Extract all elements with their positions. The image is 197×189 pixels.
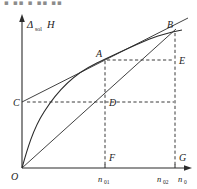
x-axis-subscript: 0 xyxy=(184,179,187,185)
point-label-O: O xyxy=(11,171,18,182)
x-axis-arrowhead xyxy=(184,165,192,171)
tick-label-n01-symbol: n xyxy=(98,174,102,184)
plot-canvas: Δ sol H n 0 n 01 n 02 A B C D E F G O xyxy=(0,0,197,189)
point-label-E: E xyxy=(178,55,185,66)
x-axis-symbol: n xyxy=(178,174,182,184)
tick-label-n02-subscript: 02 xyxy=(163,179,169,185)
enthalpy-of-solution-figure: ▪ ▪▪ ▪ ▪▪ ▪▪ Δ sol xyxy=(0,0,197,189)
y-axis-delta-symbol: Δ xyxy=(26,19,33,30)
tick-label-n02: n 02 xyxy=(157,174,169,185)
point-label-B: B xyxy=(167,19,173,30)
tick-label-n01: n 01 xyxy=(98,174,110,185)
y-axis-quantity: H xyxy=(46,19,56,30)
y-axis-label: Δ sol H xyxy=(26,19,56,32)
tick-label-n01-subscript: 01 xyxy=(104,179,110,185)
tick-label-n02-symbol: n xyxy=(157,174,161,184)
point-label-C: C xyxy=(13,97,20,108)
point-label-F: F xyxy=(108,152,116,163)
point-label-D: D xyxy=(108,97,117,108)
point-label-A: A xyxy=(95,48,103,59)
y-axis-subscript: sol xyxy=(35,26,42,32)
y-axis-arrowhead xyxy=(19,14,25,22)
point-label-G: G xyxy=(179,152,186,163)
x-axis-label: n 0 xyxy=(178,174,187,185)
